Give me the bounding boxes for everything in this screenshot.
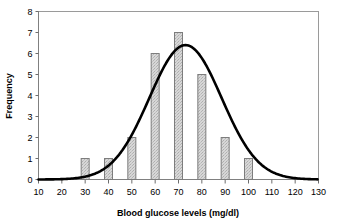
- x-axis-title: Blood glucose levels (mg/dl): [117, 208, 239, 218]
- histogram-bar: [175, 33, 183, 180]
- y-tick-label: 8: [27, 7, 32, 17]
- x-tick-label: 10: [33, 187, 43, 197]
- histogram-bar: [245, 159, 253, 180]
- y-tick-label: 6: [27, 49, 32, 59]
- x-tick-label: 50: [127, 187, 137, 197]
- x-tick-label: 110: [265, 187, 279, 197]
- x-axis-tick-labels: 102030405060708090100110120130: [33, 187, 326, 197]
- y-tick-label: 5: [27, 70, 32, 80]
- x-tick-label: 80: [197, 187, 207, 197]
- y-tick-label: 7: [27, 28, 32, 38]
- x-tick-label: 130: [311, 187, 326, 197]
- x-tick-label: 100: [241, 187, 256, 197]
- x-tick-label: 60: [150, 187, 160, 197]
- histogram-bar: [221, 138, 229, 180]
- x-tick-label: 90: [220, 187, 230, 197]
- x-tick-label: 40: [103, 187, 113, 197]
- histogram-bar: [128, 138, 136, 180]
- chart-canvas: 012345678 102030405060708090100110120130…: [0, 0, 337, 224]
- histogram-bar: [198, 75, 206, 180]
- y-axis-title: Frequency: [4, 73, 14, 119]
- y-tick-label: 3: [27, 112, 32, 122]
- y-axis-tick-labels: 012345678: [27, 7, 32, 185]
- histogram-chart: 012345678 102030405060708090100110120130…: [0, 0, 337, 224]
- x-tick-label: 70: [173, 187, 183, 197]
- histogram-bar: [151, 54, 159, 180]
- x-tick-label: 30: [80, 187, 90, 197]
- x-tick-label: 20: [57, 187, 67, 197]
- x-tick-label: 120: [288, 187, 303, 197]
- x-axis-ticks: [39, 180, 319, 184]
- y-tick-label: 4: [27, 91, 32, 101]
- y-tick-label: 1: [27, 154, 32, 164]
- y-tick-label: 0: [27, 175, 32, 185]
- y-tick-label: 2: [27, 133, 32, 143]
- histogram-bars: [81, 33, 252, 180]
